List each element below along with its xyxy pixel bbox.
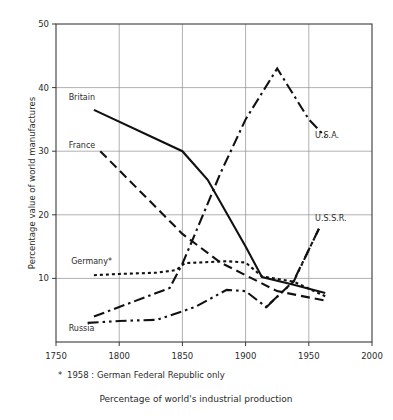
chart-footnote: 1958 : German Federal Republic only: [67, 370, 225, 380]
plot-frame: [56, 24, 372, 342]
series-line-usa: [94, 69, 325, 317]
x-tick-label: 1950: [298, 351, 320, 361]
series-line-ussr: [266, 229, 319, 308]
grid-lines: [56, 24, 372, 342]
y-tick-label: 30: [38, 146, 49, 156]
chart-figure: Percentage value of world manufactures 1…: [0, 0, 393, 420]
y-tick-label: 40: [38, 83, 49, 93]
x-tick-label: 2000: [361, 351, 383, 361]
series-line-russia: [88, 229, 319, 323]
series-label-germany: Germany*: [71, 257, 112, 266]
y-tick-label: 10: [38, 273, 49, 283]
series-label-usa: U.S.A.: [315, 131, 339, 140]
series-label-britain: Britain: [69, 93, 95, 102]
x-tick-label: 1900: [235, 351, 257, 361]
series-label-ussr: U.S.S.R.: [315, 214, 346, 223]
x-tick-label: 1850: [172, 351, 194, 361]
series-label-russia: Russia: [69, 324, 95, 333]
x-axis-tick-labels: 175018001850190019502000: [45, 351, 383, 361]
data-series-group: [88, 69, 326, 323]
y-axis-title: Percentage value of world manufactures: [27, 96, 37, 269]
y-tick-label: 50: [38, 19, 49, 29]
x-tick-label: 1750: [45, 351, 67, 361]
series-label-france: France: [69, 141, 96, 150]
x-tick-label: 1800: [108, 351, 130, 361]
chart-caption: Percentage of world's industrial product…: [99, 394, 292, 404]
y-tick-label: 20: [38, 210, 49, 220]
y-axis-tick-labels: 1020304050: [38, 19, 49, 283]
footnote-asterisk: *: [58, 370, 62, 380]
industrial-production-line-chart: Percentage value of world manufactures 1…: [0, 0, 393, 420]
